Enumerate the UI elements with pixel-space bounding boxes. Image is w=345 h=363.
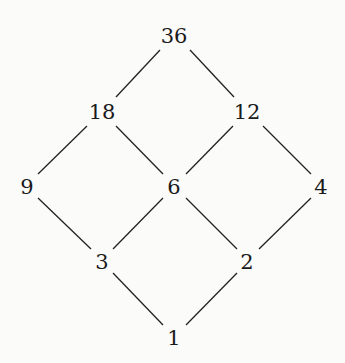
node-9: 9 — [20, 177, 33, 198]
edge-n3-n1 — [113, 273, 163, 325]
node-12: 12 — [234, 102, 261, 123]
node-1: 1 — [167, 328, 180, 349]
edge-n18-n6 — [116, 126, 163, 174]
edge-n18-n9 — [38, 126, 87, 174]
edge-n4-n2 — [259, 198, 311, 249]
node-6: 6 — [167, 177, 180, 198]
edge-n36-n18 — [116, 50, 160, 97]
edge-n2-n1 — [186, 273, 237, 325]
edge-n12-n6 — [186, 126, 233, 174]
node-4: 4 — [314, 177, 327, 198]
edge-n12-n4 — [263, 126, 311, 174]
node-2: 2 — [240, 252, 253, 273]
node-3: 3 — [95, 252, 108, 273]
edge-n9-n3 — [38, 198, 91, 249]
node-18: 18 — [89, 102, 116, 123]
edge-n36-n12 — [190, 50, 234, 97]
edge-n6-n2 — [186, 198, 237, 249]
node-36: 36 — [161, 26, 188, 47]
edge-n6-n3 — [113, 198, 163, 249]
